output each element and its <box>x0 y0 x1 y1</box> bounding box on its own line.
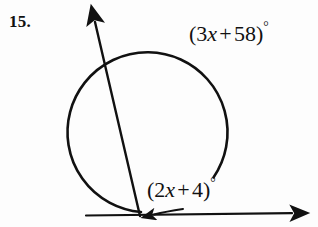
upper-coefficient: 3 <box>196 21 207 46</box>
upper-degree-symbol: ° <box>263 19 268 34</box>
secant-ray <box>95 22 140 216</box>
arc-measure-label: (3x+58)° <box>189 20 269 45</box>
angle-measure-label: (2x+4)° <box>147 176 216 201</box>
geometry-figure-canvas: 15. (3x+58)° (2x+4)° <box>0 0 318 227</box>
upper-variable: x <box>207 21 217 46</box>
problem-number: 15. <box>9 13 31 30</box>
upper-operator: + <box>217 21 234 46</box>
lower-variable: x <box>165 177 175 202</box>
lower-coefficient: 2 <box>154 177 165 202</box>
upper-constant: 58 <box>234 21 256 46</box>
horizontal-ray <box>86 213 292 215</box>
lower-degree-symbol: ° <box>210 175 215 190</box>
lower-constant: 4 <box>192 177 203 202</box>
lower-operator: + <box>175 177 192 202</box>
